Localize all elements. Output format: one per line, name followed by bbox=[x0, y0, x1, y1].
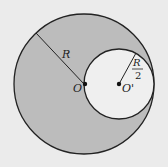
diagram-canvas: R R 2 O O' bbox=[0, 0, 168, 167]
label-big-radius: R bbox=[61, 48, 70, 61]
circle-diagram: R R 2 O O' bbox=[0, 0, 168, 167]
label-small-radius-num: R bbox=[132, 57, 141, 68]
label-center-o-prime: O' bbox=[122, 82, 134, 95]
label-center-o: O bbox=[73, 82, 82, 95]
center-point-o bbox=[83, 82, 87, 86]
center-point-o-prime bbox=[117, 82, 121, 86]
label-small-radius-den: 2 bbox=[135, 70, 141, 81]
